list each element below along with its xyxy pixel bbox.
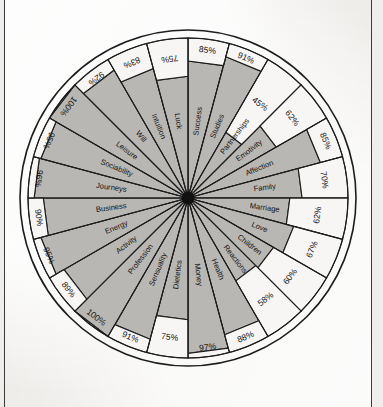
radar-chart: SuccessStudiesPartnershipsEmotivityAffec…	[0, 0, 383, 407]
radar-chart-svg: SuccessStudiesPartnershipsEmotivityAffec…	[0, 0, 383, 407]
center-hub	[182, 192, 195, 205]
